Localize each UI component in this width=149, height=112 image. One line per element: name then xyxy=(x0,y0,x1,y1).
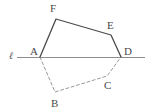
vertex-label-A: A xyxy=(30,46,38,57)
vertex-label-C: C xyxy=(104,80,111,91)
vertex-label-B: B xyxy=(51,98,58,109)
vertex-label-D: D xyxy=(124,46,132,57)
vertex-label-F: F xyxy=(50,3,56,14)
vertex-label-E: E xyxy=(107,20,114,31)
line-l-label: ℓ xyxy=(9,51,13,61)
geometry-figure: ℓ A B C D E F xyxy=(0,0,149,112)
